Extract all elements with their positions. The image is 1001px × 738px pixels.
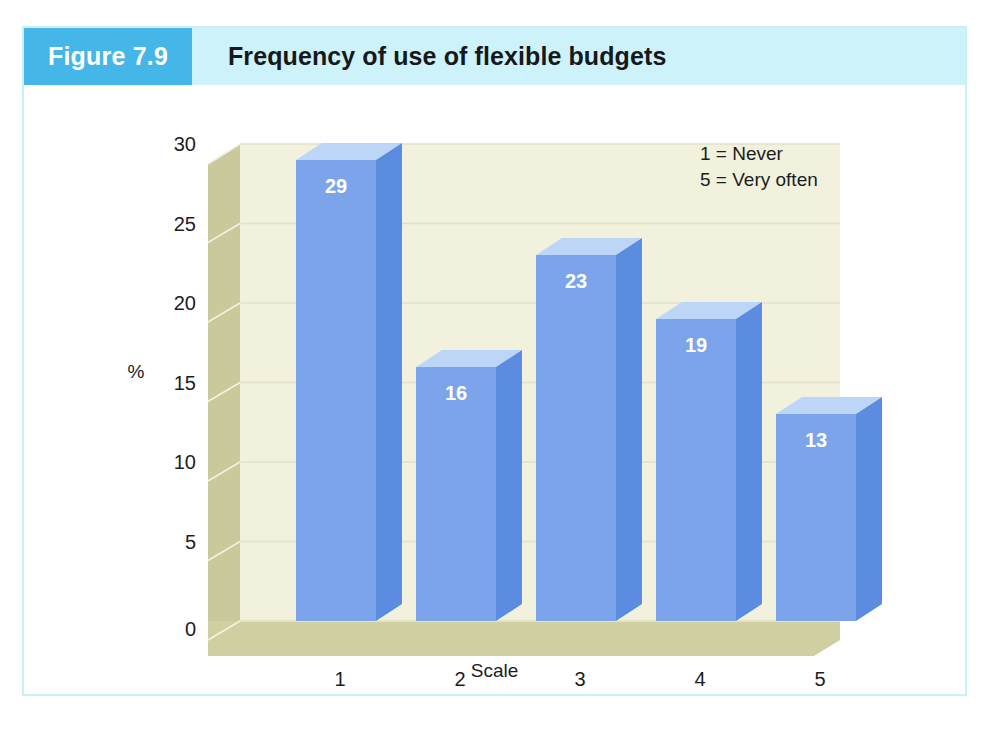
figure-number-block: Figure 7.9 (24, 28, 192, 85)
bar-column-3[interactable]: 23 (536, 238, 642, 621)
y-tick-15: 15 (174, 372, 196, 394)
figure-title-wrap: Frequency of use of flexible budgets (192, 28, 965, 85)
chart-canvas: 29 16 23 19 (24, 85, 965, 694)
y-tick-5: 5 (185, 531, 196, 553)
bar-column-1[interactable]: 29 (296, 143, 402, 621)
page-title: Frequency of use of flexible budgets (228, 42, 666, 71)
y-tick-0: 0 (185, 618, 196, 640)
bar-2-side (496, 350, 522, 621)
legend-line-2: 5 = Very often (700, 169, 818, 190)
bar-4-side (736, 302, 762, 621)
bar-5-value-label: 13 (805, 429, 827, 451)
x-axis-title-text: Scale (471, 660, 519, 681)
figure-number-label: Figure 7.9 (48, 42, 168, 71)
bar-4-front (656, 319, 736, 621)
bar-4-value-label: 19 (685, 334, 707, 356)
legend-line-1: 1 = Never (700, 143, 784, 164)
y-tick-25: 25 (174, 213, 196, 235)
bar-1-side (376, 143, 402, 621)
bar-2-value-label: 16 (445, 382, 467, 404)
bar-2-front (416, 367, 496, 621)
y-tick-20: 20 (174, 292, 196, 314)
bar-1-value-label: 29 (325, 175, 347, 197)
bar-3-side (616, 238, 642, 621)
y-tick-30: 30 (174, 133, 196, 155)
bar-3-value-label: 23 (565, 270, 587, 292)
figure-header: Figure 7.9 Frequency of use of flexible … (24, 28, 965, 85)
bar-chart-3d: 29 16 23 19 (24, 85, 965, 694)
x-axis-title: Scale (24, 660, 965, 682)
bar-column-5[interactable]: 13 (776, 397, 882, 621)
bar-column-2[interactable]: 16 (416, 350, 522, 621)
bar-column-4[interactable]: 19 (656, 302, 762, 621)
bar-1-front (296, 160, 376, 621)
bar-3-front (536, 255, 616, 621)
bar-5-side (856, 397, 882, 621)
plot-floor (208, 621, 840, 656)
y-tick-10: 10 (174, 451, 196, 473)
y-axis: 30 25 20 15 10 5 0 % (128, 133, 196, 640)
figure-frame: Figure 7.9 Frequency of use of flexible … (22, 26, 967, 696)
y-axis-title: % (128, 361, 145, 382)
